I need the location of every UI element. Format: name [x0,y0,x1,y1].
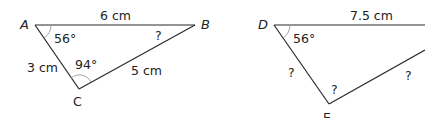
side-bc-length: 5 cm [131,63,162,78]
triangle-abc: A B C 6 cm 3 cm 5 cm 56° 94° ? [19,8,210,109]
similar-triangles-diagram: A B C 6 cm 3 cm 5 cm 56° 94° ? D E 7.5 c… [0,0,425,118]
side-df-length: 7.5 cm [350,8,393,23]
angle-b-measure: ? [155,28,162,43]
angle-a-measure: 56° [54,31,76,46]
angle-c-measure: 94° [75,57,97,72]
angle-e-measure: ? [331,82,338,97]
vertex-a-label: A [19,17,29,32]
vertex-d-label: D [258,17,268,32]
side-ac-length: 3 cm [27,60,58,75]
triangle-def: D E 7.5 cm ? ? 56° ? [258,8,425,118]
side-ab-length: 6 cm [100,8,131,23]
angle-d-arc [283,25,290,38]
vertex-b-label: B [201,17,210,32]
side-de-length: ? [288,65,295,80]
vertex-e-label: E [323,110,331,118]
angle-d-measure: 56° [293,31,315,46]
side-ef-length: ? [405,68,412,83]
vertex-c-label: C [73,94,82,109]
angle-a-arc [44,25,51,38]
